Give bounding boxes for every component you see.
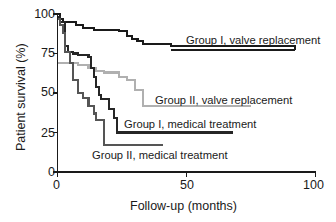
y-tick-label-25: 25 <box>41 127 55 140</box>
curve-label-group-i-medical-treatment: Group I, medical treatment <box>124 119 256 130</box>
x-axis-title: Follow-up (months) <box>130 200 237 213</box>
x-tick-label-50: 50 <box>180 179 194 192</box>
y-tick-label-50: 50 <box>41 86 55 99</box>
y-axis-title: Patient survival (%) <box>15 37 28 157</box>
y-tick-label-75: 75 <box>41 47 55 60</box>
x-tick-label-100: 100 <box>303 179 324 192</box>
survival-chart-figure: 100 75 50 25 0 0 50 100 Follow-up (month… <box>0 0 336 222</box>
x-tick-label-0: 0 <box>53 179 60 192</box>
y-tick-label-0: 0 <box>48 166 55 179</box>
curve-label-group-ii-valve-replacement: Group II, valve replacement <box>155 95 292 106</box>
curve-label-group-i-valve-replacement: Group I, valve replacement <box>186 35 320 46</box>
y-tick-label-100: 100 <box>34 8 55 21</box>
curve-label-group-ii-medical-treatment: Group II, medical treatment <box>92 150 228 161</box>
